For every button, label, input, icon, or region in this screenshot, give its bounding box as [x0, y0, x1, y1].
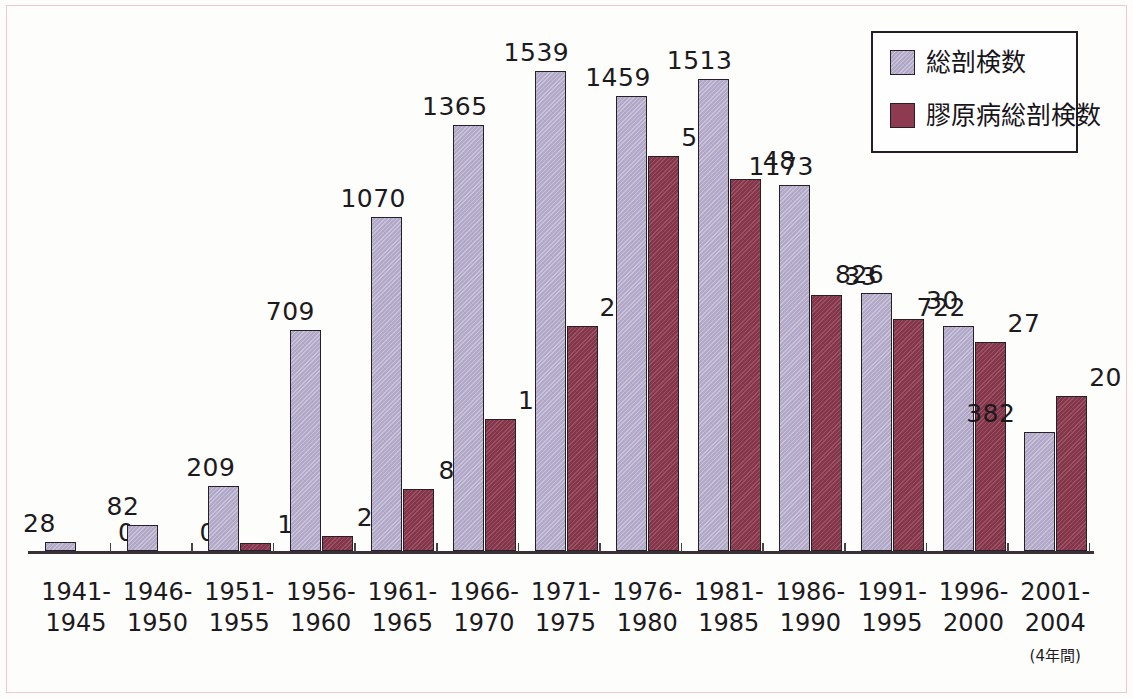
x-axis-label-line1: 2001- [1010, 577, 1100, 608]
bar-total-1981-1985 [698, 79, 729, 551]
value-label-total: 28 [23, 511, 56, 536]
value-label-total: 826 [835, 262, 884, 287]
x-axis-label-line1: 1966- [439, 577, 529, 608]
x-axis-label-line2: 1955 [194, 608, 284, 639]
x-axis-label-line1: 1981- [684, 577, 774, 608]
x-axis-label-line2: 1990 [765, 608, 855, 639]
bar-total-1951-1955 [208, 486, 239, 551]
legend-item-total: 総剖検数 [890, 50, 1026, 75]
x-axis-label-line1: 1976- [602, 577, 692, 608]
bar-collagen-1981-1985 [730, 179, 761, 551]
x-axis-label-line1: 1956- [276, 577, 366, 608]
bar-collagen-1956-1960 [322, 536, 353, 552]
x-axis-tick [1007, 543, 1009, 552]
value-label-collagen: 20 [1089, 365, 1122, 390]
x-axis-tick [1089, 543, 1091, 552]
value-label-total: 1070 [340, 186, 406, 211]
x-axis-label-line1: 1951- [194, 577, 284, 608]
x-axis-label: 1991-1995 [847, 577, 937, 639]
x-axis-label-line2: 1980 [602, 608, 692, 639]
bar-collagen-1986-1990 [811, 295, 842, 551]
bar-total-1941-1945 [45, 542, 76, 551]
bar-total-1971-1975 [535, 71, 566, 551]
value-label-total: 1539 [504, 40, 570, 65]
bar-total-1966-1970 [453, 125, 484, 551]
x-axis-label-line2: 2004 [1010, 608, 1100, 639]
x-axis-label-line2: 1975 [521, 608, 611, 639]
x-axis-tick [110, 543, 112, 552]
bar-total-1956-1960 [290, 330, 321, 551]
x-axis-tick [273, 543, 275, 552]
value-label-total: 1365 [422, 94, 488, 119]
bar-total-1986-1990 [779, 185, 810, 551]
x-axis-label-line2: 1985 [684, 608, 774, 639]
x-axis-label-line1: 1996- [929, 577, 1019, 608]
x-axis-tick [436, 543, 438, 552]
bar-total-1996-2000 [943, 326, 974, 551]
x-axis-label-line1: 1991- [847, 577, 937, 608]
x-axis-label: 1956-1960 [276, 577, 366, 639]
x-axis-label: 1971-1975 [521, 577, 611, 639]
x-axis-tick [762, 543, 764, 552]
x-axis-label: 1961-1965 [357, 577, 447, 639]
bar-collagen-1996-2000 [975, 342, 1006, 551]
value-label-total: 709 [266, 299, 315, 324]
legend-swatch-collagen-icon [890, 103, 915, 128]
x-axis-label: 1946-1950 [113, 577, 203, 639]
value-label-total: 382 [966, 401, 1015, 426]
bar-total-2001-2004 [1024, 432, 1055, 551]
x-axis-label-line1: 1971- [521, 577, 611, 608]
x-axis-label-line1: 1986- [765, 577, 855, 608]
bar-collagen-1976-1980 [648, 156, 679, 551]
x-axis-line [28, 551, 1094, 554]
bar-collagen-1951-1955 [240, 543, 271, 551]
bar-collagen-1961-1965 [403, 489, 434, 551]
legend-item-collagen: 膠原病総剖検数 [890, 103, 1101, 128]
x-axis-label: 1981-1985 [684, 577, 774, 639]
chart-figure: 2801941-19458201946-195020911951-1955709… [0, 0, 1133, 699]
x-axis-tick [354, 543, 356, 552]
x-axis-tick [599, 543, 601, 552]
x-axis-label-line1: 1946- [113, 577, 203, 608]
x-axis-label-line2: 1965 [357, 608, 447, 639]
x-axis-label: 1966-1970 [439, 577, 529, 639]
x-axis-tick [191, 543, 193, 552]
x-axis-label: 1976-1980 [602, 577, 692, 639]
x-axis-label-line2: 1995 [847, 608, 937, 639]
x-axis-label-line1: 1961- [357, 577, 447, 608]
value-label-collagen: 27 [1008, 311, 1041, 336]
bar-collagen-1966-1970 [485, 419, 516, 551]
x-axis-tick [518, 543, 520, 552]
legend-swatch-total-icon [890, 50, 915, 75]
x-axis-tick [681, 543, 683, 552]
x-axis-label: 2001-2004 [1010, 577, 1100, 639]
value-label-total: 1513 [667, 48, 733, 73]
x-axis-label: 1986-1990 [765, 577, 855, 639]
x-axis-label: 1941-1945 [31, 577, 121, 639]
chart-legend: 総剖検数 膠原病総剖検数 [871, 31, 1078, 153]
value-label-total: 209 [186, 455, 235, 480]
bar-collagen-1971-1975 [567, 326, 598, 551]
legend-label-collagen: 膠原病総剖検数 [926, 103, 1101, 128]
bar-total-1976-1980 [616, 96, 647, 551]
x-axis-label: 1951-1955 [194, 577, 284, 639]
x-axis-label-line2: 1960 [276, 608, 366, 639]
legend-label-total: 総剖検数 [926, 50, 1026, 75]
x-axis-label-line1: 1941- [31, 577, 121, 608]
x-axis-label-line2: 2000 [929, 608, 1019, 639]
x-axis-label-line2: 1945 [31, 608, 121, 639]
value-label-total: 1459 [585, 65, 651, 90]
x-axis-label-line2: 1950 [113, 608, 203, 639]
value-label-total: 82 [107, 494, 140, 519]
x-axis-tick [926, 543, 928, 552]
x-axis-tick [844, 543, 846, 552]
value-label-total: 722 [917, 295, 966, 320]
bar-total-1991-1995 [861, 293, 892, 551]
x-axis-label-line2: 1970 [439, 608, 529, 639]
bar-collagen-1991-1995 [893, 319, 924, 552]
x-axis-label-note: (4年間) [1010, 644, 1100, 665]
value-label-total: 1173 [748, 154, 814, 179]
bar-collagen-2001-2004 [1056, 396, 1087, 551]
x-axis-label: 1996-2000 [929, 577, 1019, 639]
bar-total-1946-1950 [127, 525, 158, 551]
